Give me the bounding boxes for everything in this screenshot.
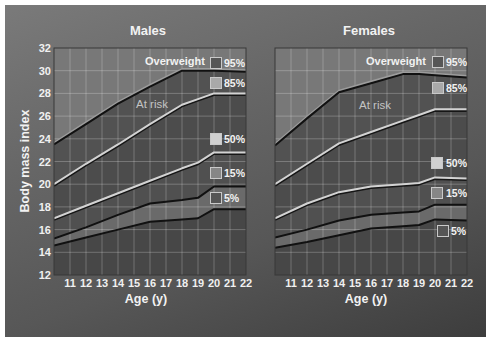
males-chart-title: Males bbox=[130, 24, 166, 37]
x-tick-label: 11 bbox=[285, 277, 297, 289]
x-tick-label: 20 bbox=[429, 277, 441, 289]
x-tick-label: 21 bbox=[445, 277, 457, 289]
legend-label-95: 95% bbox=[446, 57, 467, 68]
legend-swatch-95 bbox=[210, 57, 222, 69]
bmi-percentile-figure: 1112131415161718192021221214161820222426… bbox=[0, 0, 490, 343]
y-tick-label: 28 bbox=[39, 87, 51, 99]
legend-label-85: 85% bbox=[224, 78, 245, 89]
x-tick-label: 11 bbox=[64, 277, 76, 289]
x-tick-label: 12 bbox=[301, 277, 313, 289]
x-tick-label: 15 bbox=[128, 277, 140, 289]
x-tick-label: 18 bbox=[176, 277, 188, 289]
y-tick-label: 12 bbox=[39, 269, 51, 281]
females-chart-title: Females bbox=[343, 24, 395, 37]
x-tick-label: 19 bbox=[413, 277, 425, 289]
legend-swatch-15 bbox=[431, 187, 443, 199]
legend-swatch-15 bbox=[210, 167, 222, 179]
females-x-axis-label: Age (y) bbox=[345, 293, 387, 306]
x-tick-label: 15 bbox=[349, 277, 361, 289]
y-tick-label: 14 bbox=[39, 246, 52, 258]
legend-label-5: 5% bbox=[451, 226, 466, 237]
y-tick-label: 18 bbox=[39, 201, 51, 213]
x-tick-label: 22 bbox=[461, 277, 473, 289]
legend-swatch-85 bbox=[432, 82, 444, 94]
x-tick-label: 17 bbox=[160, 277, 172, 289]
legend-label-15: 15% bbox=[224, 168, 245, 179]
x-tick-label: 18 bbox=[397, 277, 409, 289]
x-tick-label: 12 bbox=[80, 277, 92, 289]
males-at-risk-label: At risk bbox=[136, 99, 168, 111]
y-tick-label: 32 bbox=[39, 42, 51, 54]
legend-swatch-50 bbox=[431, 157, 443, 169]
legend-label-85: 85% bbox=[446, 83, 467, 94]
x-tick-label: 17 bbox=[381, 277, 393, 289]
legend-label-5: 5% bbox=[224, 193, 239, 204]
y-tick-label: 16 bbox=[39, 224, 51, 236]
females-at-risk-label: At risk bbox=[359, 100, 391, 112]
x-tick-label: 19 bbox=[192, 277, 204, 289]
x-tick-label: 21 bbox=[224, 277, 236, 289]
y-tick-label: 26 bbox=[39, 110, 51, 122]
legend-label-50: 50% bbox=[446, 158, 467, 169]
y-axis-label: Body mass index bbox=[19, 110, 32, 213]
legend-swatch-50 bbox=[210, 133, 222, 145]
y-tick-label: 24 bbox=[39, 133, 52, 145]
legend-swatch-85 bbox=[210, 77, 222, 89]
females-overweight-label: Overweight bbox=[366, 56, 426, 67]
y-tick-label: 30 bbox=[39, 65, 51, 77]
x-tick-label: 22 bbox=[240, 277, 252, 289]
legend-label-50: 50% bbox=[224, 134, 245, 145]
x-tick-label: 20 bbox=[208, 277, 220, 289]
x-tick-label: 13 bbox=[96, 277, 108, 289]
legend-swatch-95 bbox=[432, 56, 444, 68]
x-tick-label: 14 bbox=[112, 277, 125, 289]
legend-swatch-5 bbox=[210, 192, 222, 204]
legend-label-15: 15% bbox=[446, 188, 467, 199]
x-tick-label: 16 bbox=[365, 277, 377, 289]
x-tick-label: 13 bbox=[317, 277, 329, 289]
males-x-axis-label: Age (y) bbox=[125, 293, 167, 306]
legend-label-95: 95% bbox=[224, 58, 245, 69]
x-tick-label: 16 bbox=[144, 277, 156, 289]
y-tick-label: 22 bbox=[39, 156, 51, 168]
legend-swatch-5 bbox=[437, 225, 449, 237]
x-tick-label: 14 bbox=[333, 277, 346, 289]
males-overweight-label: Overweight bbox=[145, 56, 205, 67]
y-tick-label: 20 bbox=[39, 178, 51, 190]
